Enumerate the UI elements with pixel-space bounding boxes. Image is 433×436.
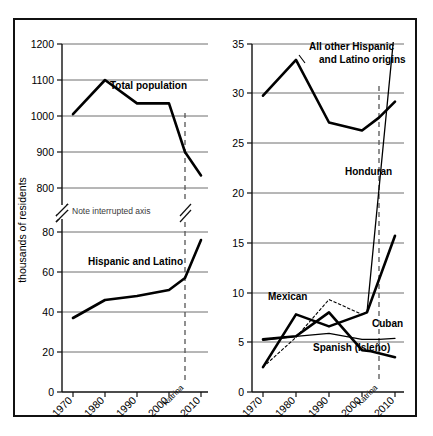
figure-container: 1200 1100 1000 900 800 80 60 40 20 0 bbox=[0, 0, 433, 436]
ytick-label-900: 900 bbox=[36, 146, 54, 158]
series-label-spanish-isleno: Spanish (Isleño) bbox=[313, 342, 390, 353]
katrina-break-slash-1 bbox=[180, 204, 191, 216]
series-label-honduran: Honduran bbox=[345, 166, 392, 177]
ytick-label-15: 15 bbox=[232, 237, 244, 249]
ytick-label-5: 5 bbox=[238, 336, 244, 348]
ytick-label-60: 60 bbox=[42, 266, 54, 278]
left-gridlines-lower bbox=[62, 232, 208, 352]
xtick-label-2010: 2010 bbox=[177, 394, 202, 419]
y-axis-title: thousands of residents bbox=[16, 177, 28, 283]
ytick-label-0: 0 bbox=[238, 386, 244, 398]
ytick-label-25: 25 bbox=[232, 137, 244, 149]
xtick-label-1990: 1990 bbox=[305, 394, 330, 419]
series-line-hispanic-and-latino bbox=[73, 240, 201, 318]
right-panel: 35 30 25 20 15 10 5 0 1970 1980 1990 bbox=[232, 24, 406, 419]
right-y-ticks bbox=[247, 44, 252, 392]
left-katrina-break bbox=[180, 204, 191, 222]
all-other-leader-line bbox=[299, 55, 305, 63]
series-line-all-other-origins bbox=[263, 60, 395, 131]
xtick-label-2010: 2010 bbox=[371, 394, 396, 419]
right-x-tick-labels: 1970 1980 1990 2000 2010 bbox=[239, 394, 396, 419]
xtick-label-1990: 1990 bbox=[113, 394, 138, 419]
ytick-label-10: 10 bbox=[232, 287, 244, 299]
ytick-label-1000: 1000 bbox=[31, 110, 55, 122]
katrina-label-right: Katrina bbox=[355, 383, 380, 408]
ytick-label-20: 20 bbox=[42, 346, 54, 358]
xtick-label-1980: 1980 bbox=[272, 394, 297, 419]
series-label-all-other-origins-line1: All other Hispanic bbox=[309, 41, 394, 52]
series-label-all-other-origins-line2: and Latino origins bbox=[319, 54, 406, 65]
series-label-mexican: Mexican bbox=[268, 291, 307, 302]
series-line-total-population bbox=[73, 80, 201, 175]
series-label-hispanic-and-latino: Hispanic and Latino bbox=[88, 256, 183, 267]
ytick-label-30: 30 bbox=[232, 87, 244, 99]
ytick-label-1200: 1200 bbox=[31, 38, 55, 50]
left-x-tick-labels: 1970 1980 1990 2000 2010 bbox=[49, 394, 202, 419]
ytick-label-1100: 1100 bbox=[31, 74, 54, 86]
katrina-label-left: Katrina bbox=[161, 383, 186, 408]
right-y-tick-labels: 35 30 25 20 15 10 5 0 bbox=[232, 38, 244, 398]
ytick-label-80: 80 bbox=[42, 226, 54, 238]
left-panel: 1200 1100 1000 900 800 80 60 40 20 0 bbox=[16, 38, 208, 419]
ytick-label-0: 0 bbox=[48, 386, 54, 398]
ytick-label-800: 800 bbox=[36, 182, 54, 194]
ytick-label-35: 35 bbox=[232, 38, 244, 50]
katrina-break-slash-2 bbox=[180, 210, 191, 222]
chart-canvas: 1200 1100 1000 900 800 80 60 40 20 0 bbox=[0, 0, 433, 436]
ytick-label-40: 40 bbox=[42, 306, 54, 318]
series-label-total-population: Total population bbox=[110, 80, 187, 91]
interrupted-axis-note: Note interrupted axis bbox=[72, 206, 150, 216]
left-gridlines-upper bbox=[62, 44, 208, 188]
left-y-tick-labels: 1200 1100 1000 900 800 80 60 40 20 0 bbox=[31, 38, 55, 398]
ytick-label-20: 20 bbox=[232, 187, 244, 199]
series-label-cuban: Cuban bbox=[372, 318, 403, 329]
xtick-label-1980: 1980 bbox=[81, 394, 106, 419]
